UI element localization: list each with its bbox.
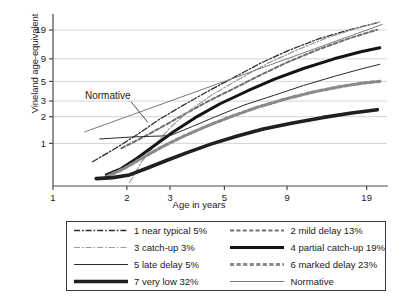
y-tick-label-2: 2 [41, 111, 46, 122]
legend-item-label: 2 mild delay 13% [290, 225, 362, 236]
legend-item-label: Normative [290, 276, 333, 287]
legend-line-sample [229, 225, 285, 236]
legend-item[interactable]: 6 marked delay 23% [223, 259, 385, 270]
legend-line-sample [73, 276, 129, 287]
legend-box: 1 near typical 5%2 mild delay 13%3 catch… [66, 221, 386, 291]
legend-item[interactable]: 3 catch-up 3% [67, 242, 223, 253]
x-axis-label: Age in years [0, 199, 398, 210]
chart-screenshot: 12359191235919Normative Vineland age-equ… [0, 0, 398, 299]
legend-item[interactable]: 4 partial catch-up 19% [223, 242, 385, 253]
legend-item-label: 1 near typical 5% [134, 225, 207, 236]
legend-item[interactable]: 5 late delay 5% [67, 259, 223, 270]
legend-line-sample [229, 242, 285, 253]
legend-item[interactable]: 1 near typical 5% [67, 225, 223, 236]
legend-item[interactable]: 7 very low 32% [67, 276, 223, 287]
legend-item-label: 6 marked delay 23% [290, 259, 377, 270]
y-tick-label-1: 1 [41, 138, 46, 149]
y-tick-label-3: 3 [41, 95, 46, 106]
y-axis-label: Vineland age-equivalent [29, 0, 40, 144]
legend-item-label: 5 late delay 5% [134, 259, 199, 270]
legend-item-label: 7 very low 32% [134, 276, 198, 287]
legend-line-sample [73, 225, 129, 236]
legend-item-label: 3 catch-up 3% [134, 242, 195, 253]
legend-item[interactable]: 2 mild delay 13% [223, 225, 385, 236]
legend-line-sample [229, 259, 285, 270]
y-tick-label-5: 5 [41, 76, 46, 87]
series-line-5 [106, 81, 379, 176]
legend-item-label: 4 partial catch-up 19% [290, 242, 385, 253]
legend-item[interactable]: Normative [223, 276, 385, 287]
y-tick-label-9: 9 [41, 53, 46, 64]
chart-figure: 12359191235919Normative Vineland age-equ… [0, 0, 398, 215]
legend-line-sample [229, 276, 285, 287]
legend-line-sample [73, 242, 129, 253]
annotation-normative-label: Normative [85, 90, 131, 101]
legend-line-sample [73, 259, 129, 270]
plot-canvas: 12359191235919Normative [0, 0, 398, 215]
annotation-normative-leader [131, 102, 148, 123]
legend-grid: 1 near typical 5%2 mild delay 13%3 catch… [67, 222, 385, 290]
